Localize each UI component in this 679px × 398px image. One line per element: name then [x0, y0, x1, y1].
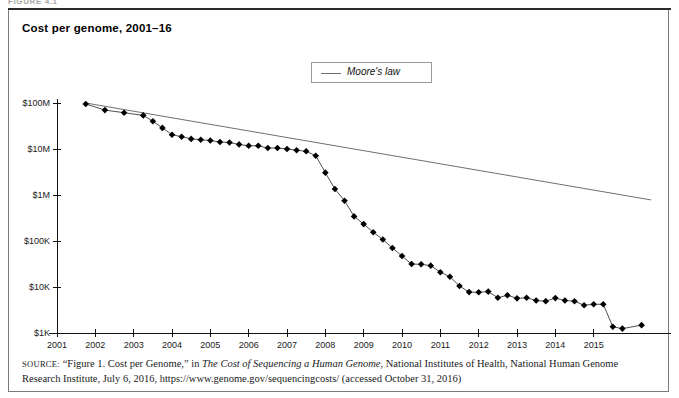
data-point-marker — [150, 118, 157, 125]
data-point-marker — [571, 298, 578, 305]
data-point-marker — [159, 125, 166, 132]
x-tick-label: 2013 — [507, 340, 527, 350]
data-point-marker — [542, 298, 549, 305]
data-point-marker — [638, 322, 645, 329]
data-point-marker — [82, 101, 89, 108]
data-point-marker — [600, 301, 607, 308]
data-point-marker — [303, 148, 310, 155]
y-tick-label: $1K — [34, 328, 50, 338]
data-point-marker — [523, 294, 530, 301]
data-point-marker — [236, 141, 243, 148]
y-tick-label: $1M — [32, 190, 50, 200]
x-tick-label: 2004 — [162, 340, 182, 350]
data-point-marker — [533, 297, 540, 304]
data-point-marker — [590, 301, 597, 308]
cost-per-genome-chart: $100M$10M$1M$100K$10K$1K 200120022003200… — [0, 0, 679, 398]
data-point-marker — [245, 143, 252, 150]
data-point-marker — [427, 262, 434, 269]
x-tick-label: 2003 — [124, 340, 144, 350]
source-publication-title: The Cost of Sequencing a Human Genome — [202, 358, 380, 369]
data-point-marker — [284, 146, 291, 153]
data-point-marker — [504, 292, 511, 299]
data-point-marker — [188, 136, 195, 143]
data-point-marker — [312, 152, 319, 159]
x-tick-label: 2006 — [239, 340, 259, 350]
data-point-marker — [562, 297, 569, 304]
x-axis: 2001200220032004200520062007200820092010… — [47, 329, 671, 350]
data-point-marker — [217, 139, 224, 146]
cost-per-genome-series — [82, 101, 644, 332]
data-point-marker — [102, 107, 109, 114]
x-tick-label: 2011 — [431, 340, 450, 350]
x-tick-label: 2009 — [354, 340, 374, 350]
x-tick-label: 2002 — [85, 340, 105, 350]
data-point-marker — [255, 143, 262, 150]
data-point-marker — [619, 325, 626, 332]
data-point-marker — [322, 169, 329, 176]
data-point-marker — [466, 289, 473, 296]
x-tick-label: 2012 — [469, 340, 489, 350]
data-point-marker — [293, 147, 300, 154]
cost-per-genome-line — [86, 104, 642, 329]
source-text-part1: “Figure 1. Cost per Genome,” in — [60, 358, 202, 369]
data-point-marker — [552, 295, 559, 302]
x-tick-label: 2007 — [277, 340, 297, 350]
data-point-marker — [418, 261, 425, 268]
data-point-marker — [178, 133, 185, 140]
moores-law-line — [86, 103, 651, 200]
data-point-marker — [581, 302, 588, 309]
data-point-marker — [169, 131, 176, 138]
data-point-marker — [610, 324, 617, 331]
source-prefix: SOURCE: — [22, 359, 60, 369]
x-tick-label: 2001 — [47, 340, 67, 350]
x-tick-label: 2005 — [200, 340, 220, 350]
source-note: SOURCE: “Figure 1. Cost per Genome,” in … — [22, 357, 652, 385]
y-tick-label: $10K — [29, 282, 50, 292]
data-point-marker — [475, 289, 482, 296]
data-point-marker — [437, 269, 444, 276]
y-tick-label: $100K — [24, 236, 50, 246]
x-tick-label: 2010 — [392, 340, 412, 350]
y-axis: $100M$10M$1M$100K$10K$1K — [22, 98, 61, 338]
data-point-marker — [226, 139, 233, 146]
data-point-marker — [197, 136, 204, 143]
data-point-marker — [207, 137, 214, 144]
data-point-marker — [265, 145, 272, 152]
data-point-marker — [274, 145, 281, 152]
data-point-marker — [485, 288, 492, 295]
y-tick-label: $10M — [27, 144, 50, 154]
x-tick-label: 2014 — [545, 340, 565, 350]
x-tick-label: 2015 — [584, 340, 604, 350]
moores-law-series — [86, 103, 651, 200]
data-point-marker — [495, 294, 502, 301]
x-tick-label: 2008 — [315, 340, 335, 350]
data-point-marker — [514, 295, 521, 302]
y-tick-label: $100M — [22, 98, 50, 108]
